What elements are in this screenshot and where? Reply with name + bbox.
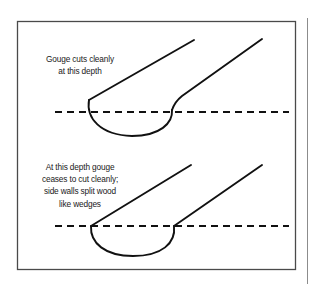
upper-right-wall xyxy=(172,39,262,110)
lower-gouge-bowl xyxy=(91,226,174,256)
lower-caption: At this depth gouge ceases to cut cleanl… xyxy=(25,161,135,210)
lower-caption-line-1: At this depth gouge xyxy=(25,161,135,173)
upper-gouge-bowl xyxy=(89,100,172,136)
upper-caption: Gouge cuts cleanly at this depth xyxy=(27,53,134,77)
lower-caption-line-3: side walls split wood xyxy=(25,185,135,197)
lower-caption-line-4: like wedges xyxy=(25,198,135,210)
upper-caption-line-2: at this depth xyxy=(27,65,134,77)
lower-caption-line-2: ceases to cut cleanly; xyxy=(25,173,135,185)
diagram-page: Gouge cuts cleanly at this depth At this… xyxy=(0,0,314,284)
upper-caption-line-1: Gouge cuts cleanly xyxy=(27,53,134,65)
gouge-diagram-svg xyxy=(0,0,314,284)
lower-right-wall xyxy=(174,165,262,226)
